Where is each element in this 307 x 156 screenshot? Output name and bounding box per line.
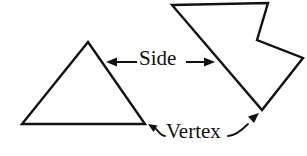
curved-arrow-up-left-icon (148, 124, 165, 136)
side-label: Side (139, 48, 176, 69)
concave-polygon-shape (172, 3, 303, 110)
triangle-shape (22, 42, 145, 124)
vertex-label: Vertex (166, 121, 221, 142)
arrow-left-icon (106, 58, 137, 67)
arrow-right-icon (186, 58, 215, 67)
geometry-diagram: Side Vertex (0, 0, 307, 156)
curved-arrow-up-right-icon (228, 113, 259, 136)
diagram-canvas (0, 0, 307, 156)
